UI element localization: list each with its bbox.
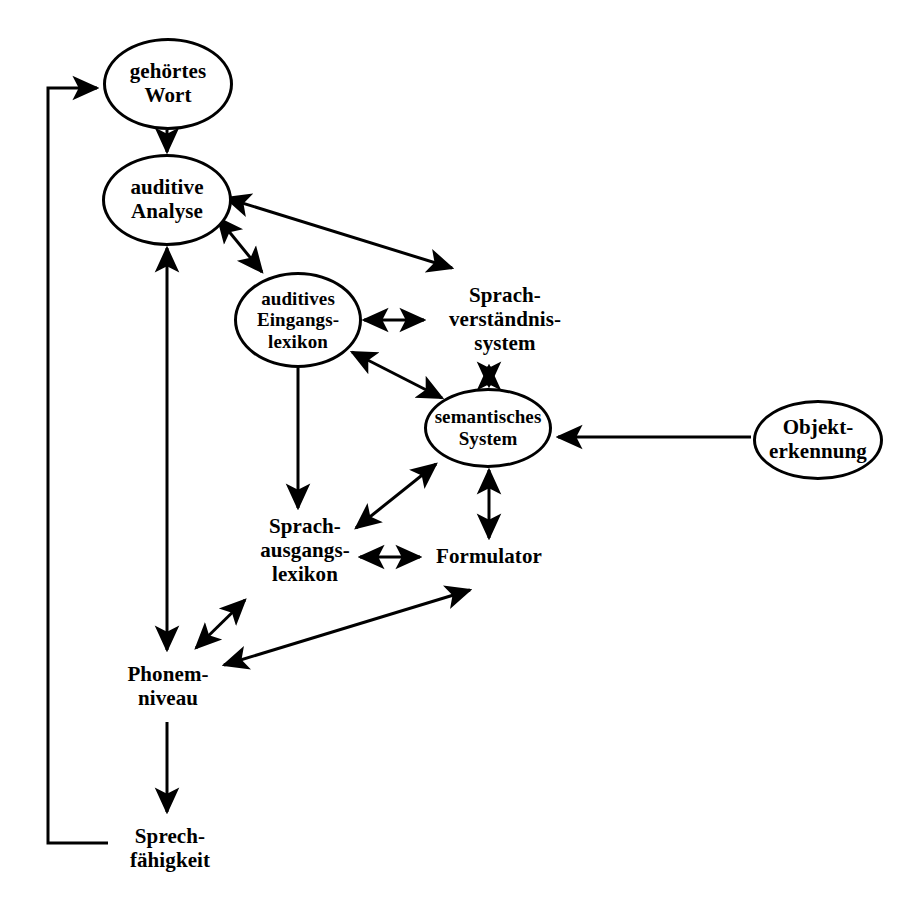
edge-feedback-to-gehoertes-wort [48, 88, 108, 843]
node-semantisches-system-label: semantisches System [435, 406, 542, 449]
node-phonemniveau[interactable]: Phonem- niveau [106, 656, 230, 718]
edge-phonemniveau-to-sprachausgangslexikon [196, 600, 245, 648]
node-sprachausgangslexikon[interactable]: Sprach- ausgangs- lexikon [240, 505, 370, 597]
node-formulator-label: Formulator [436, 545, 542, 569]
node-objekterkennung[interactable]: Objekt- erkennung [753, 400, 883, 480]
node-auditives-eingangslexikon-label: auditives Eingangs- lexikon [257, 288, 339, 353]
node-semantisches-system[interactable]: semantisches System [424, 388, 552, 468]
edge-auditive-analyse-to-eingangslexikon [218, 218, 262, 272]
node-sprechfaehigkeit[interactable]: Sprech- fähigkeit [110, 818, 230, 880]
node-phonemniveau-label: Phonem- niveau [127, 663, 208, 711]
node-auditive-analyse[interactable]: auditive Analyse [102, 154, 232, 246]
node-auditive-analyse-label: auditive Analyse [130, 176, 203, 224]
diagram-canvas: gehörtes Wort auditive Analyse auditives… [0, 0, 914, 906]
node-sprachverstaendnissystem[interactable]: Sprach- verständnis- system [420, 274, 590, 366]
node-objekterkennung-label: Objekt- erkennung [769, 416, 867, 464]
edge-phonemniveau-to-formulator [224, 590, 470, 665]
node-sprachausgangslexikon-label: Sprach- ausgangs- lexikon [260, 515, 350, 587]
node-gehoertes-wort[interactable]: gehörtes Wort [103, 38, 233, 130]
node-gehoertes-wort-label: gehörtes Wort [130, 60, 207, 108]
edge-auditive-analyse-to-sprachverstaendnissystem [226, 198, 452, 268]
node-formulator[interactable]: Formulator [424, 542, 554, 572]
node-sprechfaehigkeit-label: Sprech- fähigkeit [130, 825, 210, 873]
node-sprachverstaendnissystem-label: Sprach- verständnis- system [449, 284, 561, 356]
node-auditives-eingangslexikon[interactable]: auditives Eingangs- lexikon [234, 272, 362, 368]
